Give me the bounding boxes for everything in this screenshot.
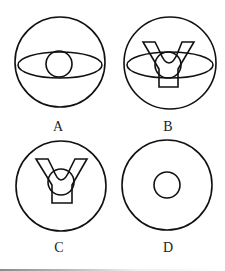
y-shape bbox=[143, 42, 194, 87]
option-label-c: C bbox=[54, 240, 63, 255]
option-figures: A B C D bbox=[0, 0, 225, 271]
option-b[interactable]: B bbox=[124, 17, 216, 134]
option-label-b: B bbox=[163, 119, 172, 134]
horizontal-ellipse-shape bbox=[18, 52, 102, 78]
y-shape bbox=[36, 159, 87, 203]
option-a[interactable]: A bbox=[15, 17, 105, 134]
small-circle-shape bbox=[154, 172, 180, 198]
option-c[interactable]: C bbox=[16, 141, 106, 255]
option-label-d: D bbox=[163, 240, 173, 255]
large-circle-shape bbox=[122, 140, 212, 230]
option-label-a: A bbox=[53, 119, 64, 134]
horizontal-ellipse-shape bbox=[127, 52, 213, 78]
small-circle-shape bbox=[46, 51, 72, 77]
option-d[interactable]: D bbox=[122, 140, 212, 255]
large-circle-shape bbox=[16, 141, 106, 231]
large-circle-shape bbox=[15, 17, 105, 107]
